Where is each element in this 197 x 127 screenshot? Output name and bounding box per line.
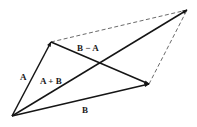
label-a: A xyxy=(20,72,27,82)
label-a-plus-b: A + B xyxy=(40,76,62,86)
label-b: B xyxy=(82,105,88,115)
vector-b-minus-a-arrow xyxy=(51,42,149,84)
dashed-edge-top xyxy=(51,10,187,42)
label-b-minus-a: B − A xyxy=(77,43,99,53)
vector-b-arrow xyxy=(12,84,149,116)
vector-diagram: A A + B B − A B xyxy=(0,0,197,127)
